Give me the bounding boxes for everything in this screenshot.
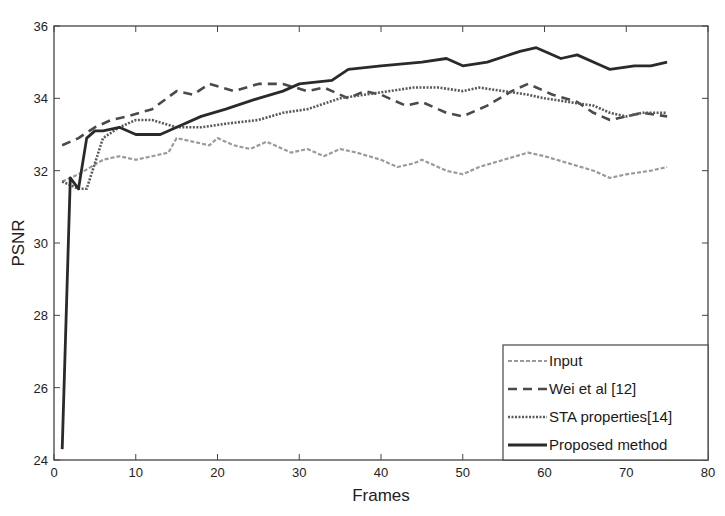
y-tick-label: 28: [34, 308, 48, 323]
legend-label-wei-et-al-12: Wei et al [12]: [549, 380, 636, 397]
x-tick-label: 0: [50, 465, 57, 480]
y-tick-label: 32: [34, 164, 48, 179]
legend-label-input: Input: [549, 352, 583, 369]
legend: InputWei et al [12]STA properties[14]Pro…: [503, 345, 708, 460]
x-tick-label: 40: [374, 465, 388, 480]
y-tick-label: 26: [34, 381, 48, 396]
x-tick-label: 60: [537, 465, 551, 480]
psnr-line-chart: 01020304050607080 24262830323436 Frames …: [0, 0, 725, 516]
y-tick-label: 30: [34, 236, 48, 251]
x-axis-label: Frames: [352, 486, 410, 505]
x-tick-label: 50: [456, 465, 470, 480]
x-tick-label: 80: [701, 465, 715, 480]
legend-label-proposed-method: Proposed method: [549, 436, 667, 453]
x-tick-label: 10: [129, 465, 143, 480]
x-tick-label: 30: [292, 465, 306, 480]
x-tick-label: 20: [210, 465, 224, 480]
y-tick-label: 24: [34, 453, 48, 468]
y-tick-label: 34: [34, 91, 48, 106]
y-tick-label: 36: [34, 19, 48, 34]
x-tick-label: 70: [619, 465, 633, 480]
y-axis-label: PSNR: [9, 219, 28, 266]
legend-label-sta-properties-14: STA properties[14]: [549, 408, 672, 425]
